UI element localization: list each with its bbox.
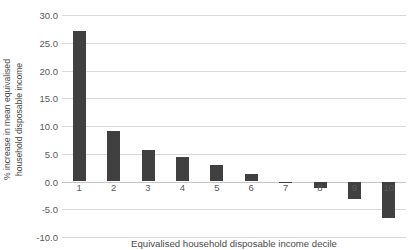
x-axis-tick-label: 6	[236, 182, 266, 193]
y-axis-tick-label: 30.0	[18, 10, 58, 21]
x-axis-tick-label: 10	[374, 182, 404, 193]
x-axis-tick-label: 9	[339, 182, 369, 193]
bar-chart: % increase in mean equivalised household…	[0, 0, 413, 250]
x-axis-tick-label: 3	[133, 182, 163, 193]
y-axis-tick-label: 5.0	[18, 148, 58, 159]
x-axis-tick-label: 8	[305, 182, 335, 193]
y-axis-tick-label: -5.0	[18, 204, 58, 215]
y-axis-tick-label: 10.0	[18, 121, 58, 132]
y-axis-tick-labels: 30.025.020.015.010.05.00.0-5.0-10.0	[14, 15, 58, 237]
x-axis-title: Equivalised household disposable income …	[62, 238, 406, 249]
x-axis-tick-label: 7	[271, 182, 301, 193]
x-axis-tick-label: 4	[167, 182, 197, 193]
y-axis-tick-label: -10.0	[18, 232, 58, 243]
y-axis-title-line-1: % increase in mean equivalised	[2, 59, 14, 180]
x-axis-tick-label: 5	[202, 182, 232, 193]
y-axis-tick-label: 15.0	[18, 93, 58, 104]
y-axis-tick-label: 20.0	[18, 65, 58, 76]
x-axis-tick-label: 1	[64, 182, 94, 193]
y-axis-tick-label: 0.0	[18, 176, 58, 187]
y-axis-tick-label: 25.0	[18, 37, 58, 48]
x-axis-tick-labels: 12345678910	[62, 0, 406, 250]
x-axis-tick-label: 2	[99, 182, 129, 193]
